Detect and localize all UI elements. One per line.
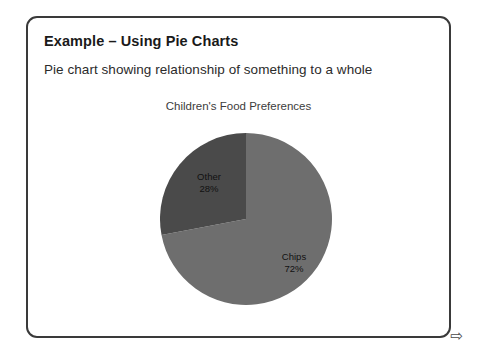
pie-chart: Other 28% Chips 72%	[160, 133, 332, 305]
page-title: Example – Using Pie Charts	[44, 33, 238, 49]
pie-chart-svg	[160, 133, 332, 305]
pie-slice-other[interactable]	[160, 133, 246, 235]
chart-title: Children's Food Preferences	[26, 100, 451, 112]
pie-chart-block: Children's Food Preferences Other 28% Ch…	[26, 100, 451, 315]
slide-canvas: Example – Using Pie Charts Pie chart sho…	[0, 0, 477, 352]
page-subtitle: Pie chart showing relationship of someth…	[44, 62, 372, 77]
next-arrow-icon[interactable]: ⇨	[450, 329, 463, 344]
